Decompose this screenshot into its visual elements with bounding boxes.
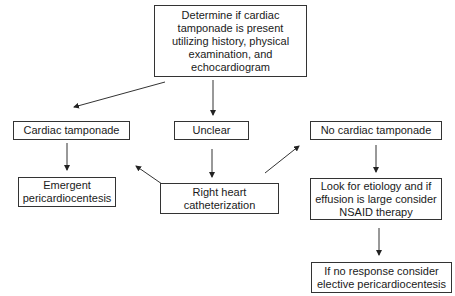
- node-no-response: If no response consider elective pericar…: [311, 262, 452, 293]
- node-no-response-text: If no response consider elective pericar…: [315, 265, 448, 291]
- node-cardiac-tamponade: Cardiac tamponade: [13, 121, 130, 140]
- node-emergent-pericardiocentesis: Emergent pericardiocentesis: [18, 177, 116, 207]
- node-no-cardiac-tamponade-text: No cardiac tamponade: [321, 124, 432, 137]
- node-rhc-text: Right heart catheterization: [164, 186, 275, 212]
- node-right-heart-catheterization: Right heart catheterization: [160, 183, 279, 214]
- node-no-cardiac-tamponade: No cardiac tamponade: [310, 121, 442, 140]
- node-emergent-text: Emergent pericardiocentesis: [22, 179, 112, 205]
- node-cardiac-tamponade-text: Cardiac tamponade: [23, 124, 119, 137]
- node-unclear-text: Unclear: [193, 124, 231, 137]
- node-start: Determine if cardiac tamponade is presen…: [154, 5, 307, 77]
- node-unclear: Unclear: [174, 121, 249, 140]
- arrow-start-to-cardiac-tamponade: [74, 82, 165, 107]
- arrow-rhc-to-no-cardiac-tamponade: [265, 146, 299, 173]
- node-start-text: Determine if cardiac tamponade is presen…: [158, 9, 303, 74]
- node-look-text: Look for etiology and if effusion is lar…: [314, 180, 438, 219]
- node-look-for-etiology: Look for etiology and if effusion is lar…: [310, 178, 442, 220]
